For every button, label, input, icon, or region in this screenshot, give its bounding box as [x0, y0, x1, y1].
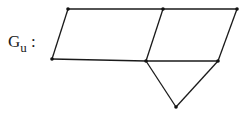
graph-edge — [146, 9, 163, 61]
graph-node — [50, 57, 54, 61]
graph-node — [144, 59, 148, 63]
graph-node — [66, 7, 70, 11]
graph-node — [216, 59, 220, 63]
graph-node — [161, 7, 165, 11]
graph-edge — [52, 9, 68, 59]
graph-edge — [52, 59, 146, 61]
graph-diagram — [0, 0, 248, 117]
graph-nodes — [50, 7, 239, 109]
graph-node — [235, 7, 239, 11]
graph-node — [174, 105, 178, 109]
graph-edge — [146, 61, 176, 107]
graph-edges — [52, 9, 237, 107]
graph-edge — [176, 61, 218, 107]
graph-edge — [218, 9, 237, 61]
